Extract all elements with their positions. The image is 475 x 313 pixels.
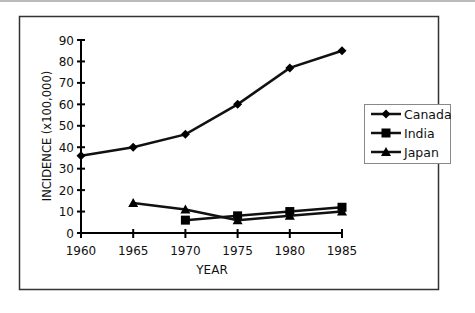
y-tick-label: 20 bbox=[59, 184, 74, 198]
x-tick-label: 1970 bbox=[170, 244, 201, 258]
y-tick-label: 60 bbox=[59, 98, 74, 112]
y-tick-label: 10 bbox=[59, 205, 74, 219]
x-axis-label: YEAR bbox=[195, 263, 227, 277]
x-tick-label: 1980 bbox=[275, 244, 306, 258]
x-tick-label: 1965 bbox=[118, 244, 149, 258]
y-tick-label: 70 bbox=[59, 76, 74, 90]
x-tick-label: 1960 bbox=[66, 244, 97, 258]
x-tick-label: 1975 bbox=[222, 244, 253, 258]
y-tick-label: 40 bbox=[59, 141, 74, 155]
india-marker bbox=[181, 216, 190, 225]
legend-label-canada: Canada bbox=[404, 107, 452, 122]
y-tick-label: 50 bbox=[59, 119, 74, 133]
canada-marker bbox=[129, 143, 138, 152]
legend-square-icon bbox=[382, 129, 391, 138]
y-tick-label: 80 bbox=[59, 55, 74, 69]
y-tick-label: 90 bbox=[59, 34, 74, 48]
y-tick-label: 30 bbox=[59, 162, 74, 176]
x-tick-label: 1985 bbox=[327, 244, 358, 258]
canada-marker bbox=[77, 151, 86, 160]
legend-label-japan: Japan bbox=[403, 145, 439, 160]
canada-marker bbox=[338, 46, 347, 55]
legend-label-india: India bbox=[404, 126, 435, 141]
y-tick-label: 0 bbox=[66, 227, 74, 241]
series-line-canada bbox=[81, 51, 342, 156]
line-chart: 0102030405060708090196019651970197519801… bbox=[0, 0, 475, 313]
y-axis-label: INCIDENCE (x100,000) bbox=[40, 71, 54, 201]
